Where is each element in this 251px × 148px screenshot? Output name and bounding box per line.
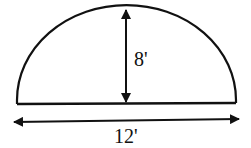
width-arrow xyxy=(14,119,239,122)
semi-ellipse-diagram: 8' 12' xyxy=(0,0,251,148)
base-line xyxy=(17,103,236,104)
width-label: 12' xyxy=(114,125,138,147)
diagram-canvas: 8' 12' xyxy=(0,0,251,148)
height-label: 8' xyxy=(134,48,148,70)
